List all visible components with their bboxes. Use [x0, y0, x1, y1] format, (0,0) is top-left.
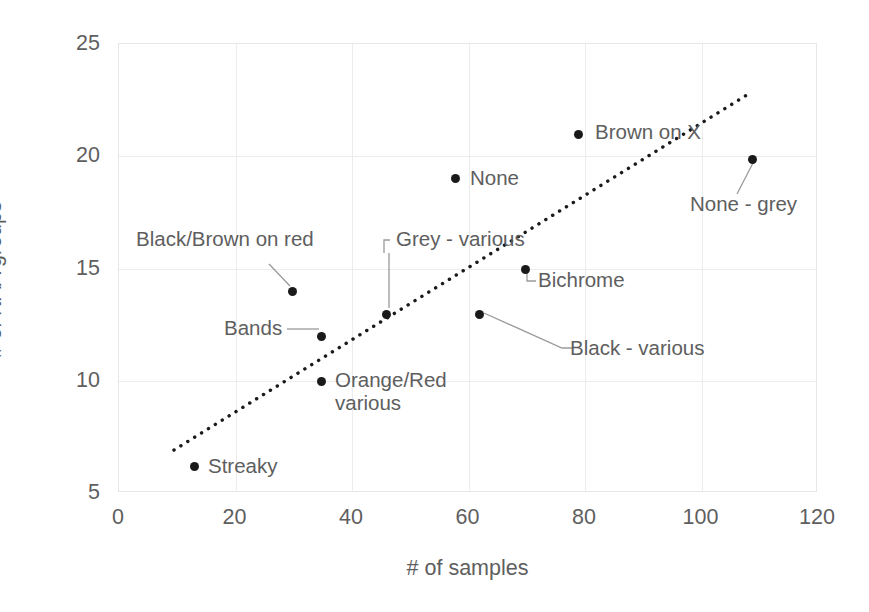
- data-label-none-grey: None - grey: [690, 193, 797, 216]
- data-label-bichrome: Bichrome: [538, 269, 625, 292]
- x-tick-80: 80: [544, 505, 624, 530]
- x-tick-40: 40: [311, 505, 391, 530]
- data-label-black-various: Black - various: [570, 337, 704, 360]
- gridline-x-60: [469, 44, 470, 491]
- x-tick-20: 20: [195, 505, 275, 530]
- y-tick-25: 25: [10, 31, 100, 56]
- y-tick-5: 5: [10, 480, 100, 505]
- scatter-plot-figure: Streaky Black/Brown on red Bands Orange/…: [0, 0, 869, 612]
- x-tick-60: 60: [428, 505, 508, 530]
- y-axis-title: # of NAA groups: [0, 130, 7, 430]
- y-tick-20: 20: [10, 143, 100, 168]
- data-point-bichrome[interactable]: [521, 265, 530, 274]
- data-point-black-various[interactable]: [475, 310, 484, 319]
- data-label-brown-on-x: Brown on X: [595, 121, 701, 144]
- data-label-black-brown-on-red: Black/Brown on red: [136, 228, 314, 251]
- data-label-bands: Bands: [224, 317, 282, 340]
- data-label-none: None: [470, 167, 519, 190]
- plot-area: [118, 43, 817, 492]
- x-tick-120: 120: [777, 505, 857, 530]
- data-point-none-grey[interactable]: [748, 155, 757, 164]
- gridline-x-100: [702, 44, 703, 491]
- data-label-grey-various: Grey - various: [396, 228, 525, 251]
- data-point-grey-various[interactable]: [382, 310, 391, 319]
- data-point-streaky[interactable]: [190, 462, 199, 471]
- y-tick-15: 15: [10, 255, 100, 280]
- data-point-brown-on-x[interactable]: [574, 130, 583, 139]
- y-tick-10: 10: [10, 367, 100, 392]
- gridline-x-40: [352, 44, 353, 491]
- gridline-y-15: [119, 269, 816, 270]
- data-label-streaky: Streaky: [208, 455, 278, 478]
- x-axis-title: # of samples: [118, 556, 817, 581]
- gridline-y-10: [119, 381, 816, 382]
- x-tick-0: 0: [78, 505, 158, 530]
- data-label-orange-red-various: Orange/Red various: [335, 369, 447, 415]
- gridline-y-20: [119, 156, 816, 157]
- x-tick-100: 100: [661, 505, 741, 530]
- gridline-x-20: [236, 44, 237, 491]
